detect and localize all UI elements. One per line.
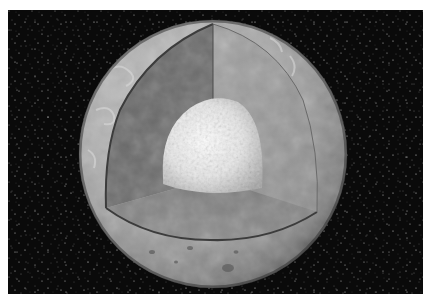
- planet-illustration: [8, 10, 423, 294]
- planet-cutaway-image: [8, 10, 423, 294]
